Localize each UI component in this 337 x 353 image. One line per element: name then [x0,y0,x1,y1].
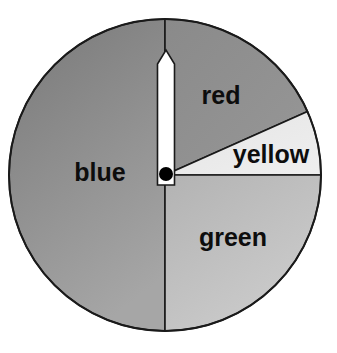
spinner-pivot-dot[interactable] [159,167,173,181]
sector-green[interactable] [165,175,321,331]
sector-label-yellow: yellow [233,140,310,168]
spinner-figure: blue red yellow green [0,0,337,353]
spinner-needle[interactable] [158,50,175,185]
sector-label-green: green [199,223,267,251]
sector-label-red: red [202,81,241,109]
sector-label-blue: blue [74,158,125,186]
